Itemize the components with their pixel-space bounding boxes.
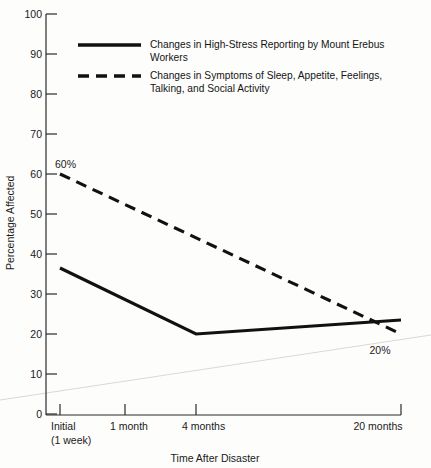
legend-label-high-stress-line2: Workers bbox=[150, 52, 188, 63]
series-line-symptoms bbox=[60, 174, 401, 334]
y-axis-title: Percentage Affected bbox=[4, 175, 16, 270]
y-tick-label-20: 20 bbox=[30, 328, 42, 340]
x-axis-title: Time After Disaster bbox=[171, 452, 260, 464]
legend-label-high-stress-line1: Changes in High-Stress Reporting by Moun… bbox=[150, 39, 384, 50]
y-tick-label-90: 90 bbox=[30, 48, 42, 60]
y-tick-label-50: 50 bbox=[30, 208, 42, 220]
y-tick-label-0: 0 bbox=[36, 408, 42, 420]
annotation-start-60-percent: 60% bbox=[55, 158, 76, 170]
x-tick-label-20-months: 20 months bbox=[353, 420, 402, 432]
x-tick-label-initial: Initial bbox=[51, 420, 76, 432]
legend: Changes in High-Stress Reporting by Moun… bbox=[78, 39, 384, 94]
y-tick-label-60: 60 bbox=[30, 168, 42, 180]
x-tick-label-initial-sub: (1 week) bbox=[51, 434, 91, 446]
x-tick-label-4-months: 4 months bbox=[182, 420, 225, 432]
y-tick-label-70: 70 bbox=[30, 128, 42, 140]
legend-label-symptoms-line2: Talking, and Social Activity bbox=[150, 83, 270, 94]
y-tick-label-10: 10 bbox=[30, 368, 42, 380]
annotation-end-20-percent: 20% bbox=[369, 344, 390, 356]
chart-svg: 100 90 80 70 60 50 40 30 20 10 0 Percent… bbox=[0, 0, 431, 468]
series-line-high-stress bbox=[60, 268, 401, 334]
chart-container: 100 90 80 70 60 50 40 30 20 10 0 Percent… bbox=[0, 0, 431, 468]
y-tick-label-40: 40 bbox=[30, 248, 42, 260]
x-tick-label-1-month: 1 month bbox=[110, 420, 148, 432]
y-tick-label-30: 30 bbox=[30, 288, 42, 300]
y-tick-label-100: 100 bbox=[24, 8, 42, 20]
y-tick-label-80: 80 bbox=[30, 88, 42, 100]
legend-label-symptoms-line1: Changes in Symptoms of Sleep, Appetite, … bbox=[150, 70, 382, 81]
scan-artifact-line bbox=[0, 335, 431, 400]
